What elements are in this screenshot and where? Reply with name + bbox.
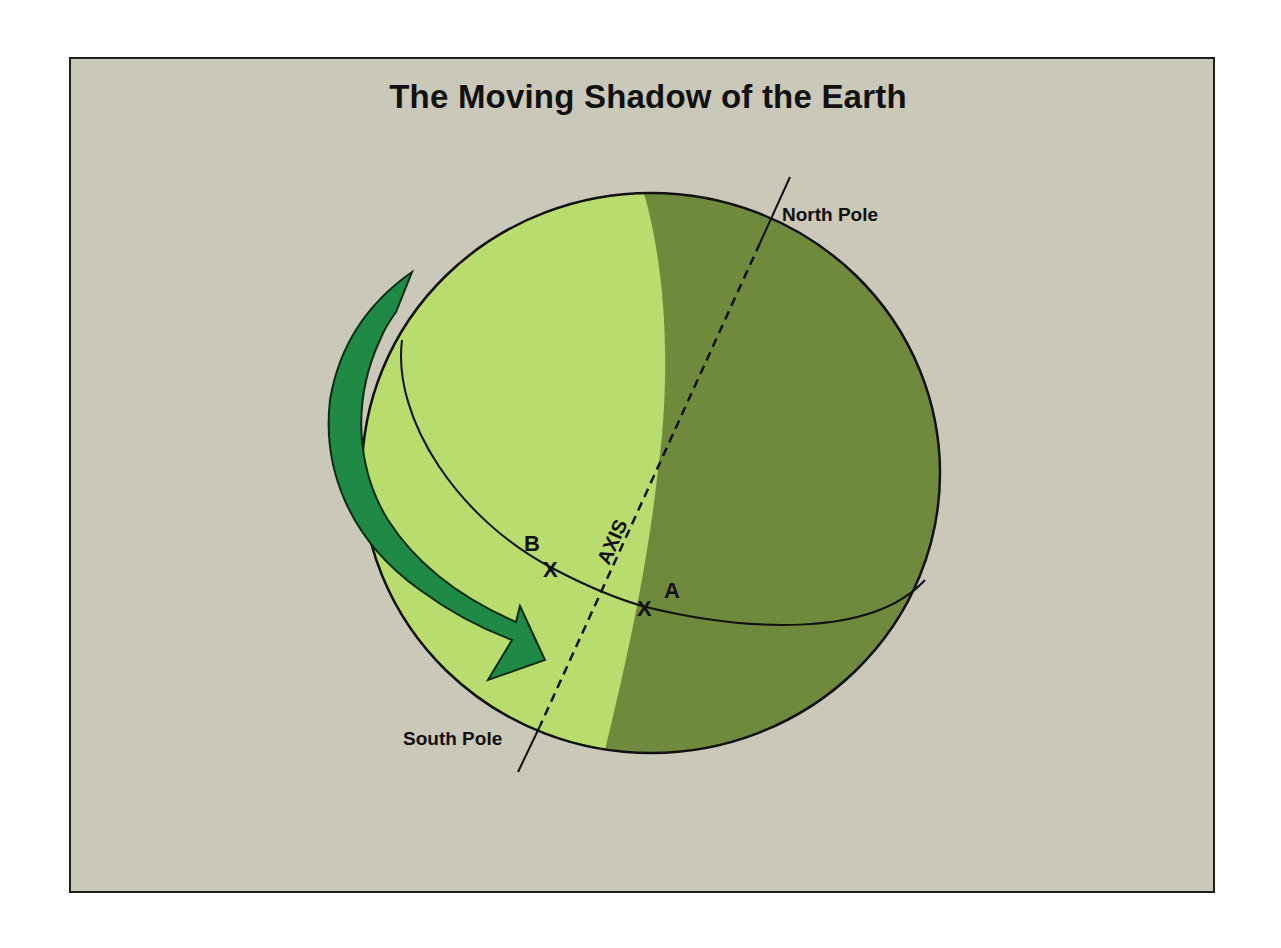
north-pole-label: North Pole: [782, 204, 878, 225]
point-b-marker: X: [543, 557, 558, 582]
south-pole-label: South Pole: [403, 728, 502, 749]
point-a-label: A: [664, 578, 680, 603]
point-a-marker: X: [637, 596, 652, 621]
axis-line-south: [518, 726, 540, 772]
earth-diagram: North Pole South Pole AXIS B X A X: [0, 0, 1281, 948]
point-b-label: B: [524, 531, 540, 556]
